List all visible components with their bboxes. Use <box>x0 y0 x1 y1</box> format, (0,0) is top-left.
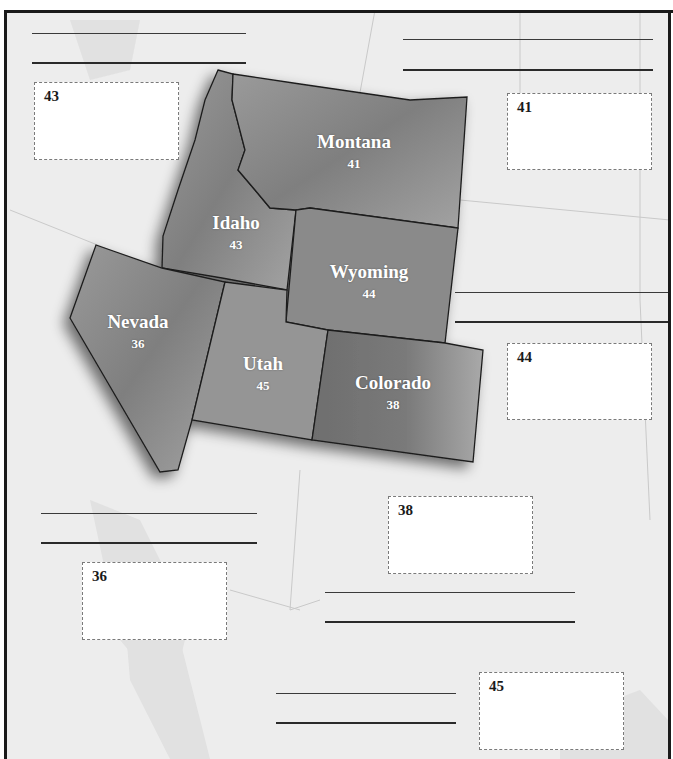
answer-line-44-1[interactable] <box>455 292 668 293</box>
answer-box-number: 44 <box>517 349 532 366</box>
state-page-number: 44 <box>330 286 408 302</box>
answer-line-43-2[interactable] <box>32 62 246 64</box>
answer-line-45-1[interactable] <box>276 693 456 694</box>
page-margin-top <box>0 0 673 10</box>
answer-line-41-2[interactable] <box>403 69 653 71</box>
state-page-number: 41 <box>317 156 391 172</box>
state-name: Montana <box>317 131 391 153</box>
state-name: Wyoming <box>330 261 408 283</box>
label-wyoming: Wyoming 44 <box>330 261 408 302</box>
worksheet-map: 43 41 44 38 36 45 Montana 41 Idaho 43 Wy… <box>0 0 673 759</box>
answer-box-number: 38 <box>398 502 413 519</box>
label-colorado: Colorado 38 <box>355 372 431 413</box>
answer-box-41[interactable]: 41 <box>507 93 652 170</box>
state-name: Utah <box>243 353 283 375</box>
state-name: Idaho <box>212 212 260 234</box>
answer-line-36-2[interactable] <box>41 542 257 544</box>
answer-box-number: 41 <box>517 99 532 116</box>
answer-line-38-1[interactable] <box>325 592 575 593</box>
answer-line-38-2[interactable] <box>325 621 575 623</box>
answer-box-45[interactable]: 45 <box>479 672 624 750</box>
label-montana: Montana 41 <box>317 131 391 172</box>
answer-box-number: 43 <box>44 88 59 105</box>
state-nevada <box>70 245 225 472</box>
frame-border-right <box>668 10 671 759</box>
answer-box-38[interactable]: 38 <box>388 496 533 574</box>
answer-box-44[interactable]: 44 <box>507 343 652 420</box>
label-nevada: Nevada 36 <box>107 311 168 352</box>
answer-line-45-2[interactable] <box>276 722 456 724</box>
state-name: Nevada <box>107 311 168 333</box>
frame-border-left <box>4 10 7 759</box>
state-page-number: 45 <box>243 378 283 394</box>
state-page-number: 43 <box>212 237 260 253</box>
answer-line-36-1[interactable] <box>41 513 257 514</box>
label-idaho: Idaho 43 <box>212 212 260 253</box>
answer-line-44-2[interactable] <box>455 321 668 323</box>
answer-box-number: 45 <box>489 678 504 695</box>
answer-line-41-1[interactable] <box>403 39 653 40</box>
answer-line-43-1[interactable] <box>32 33 246 34</box>
label-utah: Utah 45 <box>243 353 283 394</box>
frame-border-top <box>4 10 673 13</box>
answer-box-number: 36 <box>92 568 107 585</box>
answer-box-43[interactable]: 43 <box>34 82 179 160</box>
answer-box-36[interactable]: 36 <box>82 562 227 640</box>
state-page-number: 36 <box>107 336 168 352</box>
state-page-number: 38 <box>355 397 431 413</box>
state-name: Colorado <box>355 372 431 394</box>
